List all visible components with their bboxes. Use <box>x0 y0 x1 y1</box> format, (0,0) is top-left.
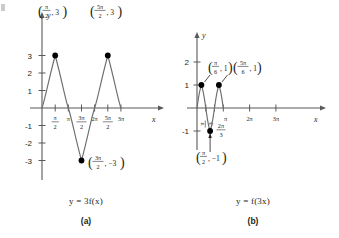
svg-text:3: 3 <box>219 131 222 138</box>
panel-a-xtick-pi-over-2: π 2 <box>52 114 59 130</box>
panel-a-annotation-max1: ( π 2 , 3 ) <box>38 3 68 21</box>
panel-b-xtick-2pi: 2π <box>246 115 253 122</box>
panel-b-leader-max1 <box>205 75 211 82</box>
panel-a-ytick-3: 3 <box>28 52 33 61</box>
panel-b-xtick-3pi: 3π <box>273 115 280 122</box>
svg-text:5π: 5π <box>105 114 112 121</box>
svg-text:5π: 5π <box>97 3 104 10</box>
panel-b-ytick-neg1: -1 <box>182 127 190 136</box>
panel-a-annotation-max2: ( 5π 2 , 3 ) <box>90 3 123 21</box>
svg-text:2π: 2π <box>218 122 225 129</box>
svg-text:, −1: , −1 <box>208 154 220 163</box>
svg-text:): ) <box>257 60 262 76</box>
svg-text:(: ( <box>88 155 93 171</box>
panel-b-point-max2 <box>216 82 222 88</box>
svg-text:π: π <box>202 149 206 156</box>
svg-text:2: 2 <box>96 163 99 170</box>
panel-b-y-axis-label: y <box>201 31 206 40</box>
svg-text:2: 2 <box>106 123 109 130</box>
panel-b-x-axis-label: x <box>313 115 318 124</box>
svg-text:(: ( <box>208 60 213 76</box>
panel-a-ytick-1: 1 <box>28 87 33 96</box>
svg-text:(: ( <box>38 4 43 20</box>
svg-text:(: ( <box>233 60 238 76</box>
svg-text:π: π <box>54 114 58 121</box>
panel-a-caption-label: (a) <box>0 216 172 226</box>
svg-text:(: ( <box>196 150 201 166</box>
svg-text:): ) <box>118 4 123 20</box>
panel-b-ytick-1: 1 <box>185 81 190 90</box>
svg-text:5π: 5π <box>240 59 247 66</box>
svg-text:(: ( <box>90 4 95 20</box>
panel-b-svg: 2 1 -1 π 3 2π 3 <box>167 0 339 195</box>
math-figure: 3 2 1 -1 -2 -3 π 2 π <box>0 0 339 238</box>
svg-text:, 3: , 3 <box>107 8 115 17</box>
svg-text:, −3: , −3 <box>105 159 117 168</box>
svg-text:3π: 3π <box>78 114 85 121</box>
svg-text:6: 6 <box>241 68 244 75</box>
svg-text:, 1: , 1 <box>220 64 228 73</box>
panel-a-ytick-neg1: -1 <box>25 122 33 131</box>
svg-text:π: π <box>198 122 205 126</box>
panel-a-svg: 3 2 1 -1 -2 -3 π 2 π <box>0 0 172 195</box>
panel-a-annotation-min: ( 3π 2 , −3 ) <box>88 154 125 172</box>
panel-a-ytick-2: 2 <box>28 69 33 78</box>
svg-text:2: 2 <box>80 123 83 130</box>
panel-a-xtick-3pi: 3π <box>118 115 125 122</box>
svg-text:, 3: , 3 <box>52 8 60 17</box>
panel-b-leader-max2 <box>222 75 228 82</box>
panel-a-xtick-3pi-over-2: 3π 2 <box>77 114 87 130</box>
panel-b-annotation-min: ( π 2 , −1 ) <box>196 149 227 167</box>
panel-a-ytick-neg3: -3 <box>25 157 33 166</box>
svg-text:π: π <box>45 3 49 10</box>
svg-text:3π: 3π <box>95 154 102 161</box>
panel-a-caption-equation: y = 3f(x) <box>0 196 172 206</box>
panel-b-caption-equation: y = f(3x) <box>167 196 339 206</box>
svg-text:2: 2 <box>98 12 101 19</box>
panel-b-point-max1 <box>199 82 205 88</box>
panel-b-annotation-max2: ( 5π 6 , 1 ) <box>233 59 262 77</box>
svg-text:π: π <box>214 59 218 66</box>
panel-b-xtick-pi: π <box>224 115 228 122</box>
panel-a-point-max1 <box>52 53 58 59</box>
panel-b-xtick-2pi-over-3: 2π 3 <box>217 122 226 138</box>
panel-b-ytick-2: 2 <box>185 58 190 67</box>
svg-text:6: 6 <box>214 68 217 75</box>
panel-a-x-axis-label: x <box>151 115 156 124</box>
panel-a-graph: 3 2 1 -1 -2 -3 π 2 π <box>0 0 172 238</box>
panel-a-ytick-neg2: -2 <box>25 139 33 148</box>
svg-text:2: 2 <box>54 123 57 130</box>
panel-a-point-max2 <box>105 53 111 59</box>
svg-text:): ) <box>63 4 68 20</box>
panel-b-graph: 2 1 -1 π 3 2π 3 <box>167 0 339 238</box>
panel-b-leader-min-arrow <box>208 133 211 138</box>
svg-text:2: 2 <box>45 12 48 19</box>
panel-b-caption-label: (b) <box>167 216 339 226</box>
panel-a-point-min <box>79 158 85 164</box>
svg-text:2: 2 <box>202 158 205 165</box>
svg-text:): ) <box>222 150 227 166</box>
panel-a-xtick-5pi-over-2: 5π 2 <box>103 114 113 130</box>
svg-text:): ) <box>120 155 125 171</box>
panel-b-annotation-max1: ( π 6 , 1 ) <box>208 59 233 77</box>
